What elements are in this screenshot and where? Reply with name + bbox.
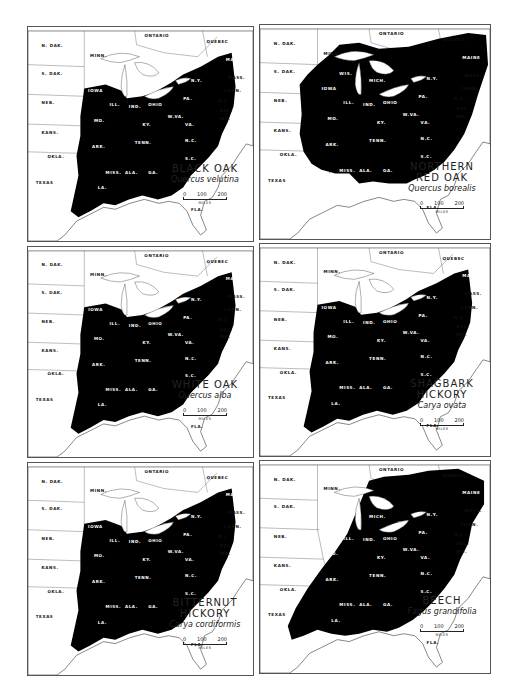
region-label: MD. <box>220 551 231 556</box>
scale-bar: 0100200 MILES <box>420 623 464 638</box>
region-label: CONN. <box>224 524 242 529</box>
scale-bar: 0100200 MILES <box>183 407 227 422</box>
region-label: VA. <box>185 122 194 127</box>
region-label: MD. <box>220 334 231 339</box>
region-label: MD. <box>456 114 467 119</box>
region-label: PA. <box>183 315 192 320</box>
region-label: N. DAK. <box>42 43 64 48</box>
region-label: NEB. <box>274 534 287 539</box>
region-label: IND. <box>129 104 141 109</box>
region-label: MAINE <box>462 273 480 278</box>
region-label: TENN. <box>369 356 386 361</box>
region-label: S. DAK. <box>274 287 296 292</box>
region-label: N.C. <box>185 356 197 361</box>
region-label: OKLA. <box>47 154 64 159</box>
map-legend: BEECH Fagus grandifolia 0100200 MILES <box>397 595 487 638</box>
region-label: TENN. <box>369 138 386 143</box>
region-label: ARK. <box>325 360 339 365</box>
region-label: OKLA. <box>47 371 64 376</box>
scientific-name: Carya ovata <box>397 400 487 411</box>
region-label: KY. <box>142 557 151 562</box>
region-label: ONTARIO <box>144 469 169 474</box>
region-label: PA. <box>419 94 428 99</box>
region-label: S. DAK. <box>274 504 296 509</box>
region-label: PA. <box>419 313 428 318</box>
region-label: KANS. <box>274 346 291 351</box>
region-label: MISS. <box>106 170 122 175</box>
region-label: IOWA <box>321 86 336 91</box>
scale-unit: MILES <box>183 645 227 651</box>
region-label: MISS. <box>339 385 355 390</box>
region-label: MO. <box>327 551 338 556</box>
region-label: GA. <box>383 602 393 607</box>
region-label: NEB. <box>42 100 55 105</box>
region-label: MICH. <box>369 297 386 302</box>
region-label: DEL. <box>220 543 233 548</box>
region-label: MICH. <box>135 80 151 85</box>
region-label: KY. <box>142 340 151 345</box>
region-label: FLA. <box>191 207 203 212</box>
region-label: GA. <box>383 385 393 390</box>
region-label: ALA. <box>359 168 372 173</box>
scale-unit: MILES <box>183 416 227 422</box>
range-map: N. DAK.S. DAK.NEB.KANS.OKLA.TEXASMINN.ON… <box>28 247 253 457</box>
region-label: MASS. <box>228 510 245 515</box>
region-label: LA. <box>98 402 107 407</box>
region-label: LA. <box>331 618 340 623</box>
region-label: CONN. <box>224 307 242 312</box>
map-legend: BLACK OAK Quercus velutina 0100200 MILES <box>160 163 250 206</box>
region-label: N. DAK. <box>274 477 296 482</box>
region-label: QUEBEC <box>206 39 228 44</box>
region-label: IOWA <box>88 524 103 529</box>
region-label: NEB. <box>42 536 55 541</box>
region-label: TEXAS <box>36 614 54 619</box>
region-label: MISS. <box>339 602 355 607</box>
region-label: N.J. <box>454 96 465 101</box>
region-label: FLA. <box>191 424 203 429</box>
region-label: OHIO <box>148 102 162 107</box>
region-label: MINN. <box>90 53 107 58</box>
scale-bar: 0100200 MILES <box>420 417 464 432</box>
region-label: IOWA <box>321 305 336 310</box>
common-name: SHAGBARK <box>397 378 487 389</box>
region-label: ALA. <box>359 385 372 390</box>
region-label: KY. <box>142 122 151 127</box>
region-label: ARK. <box>325 142 339 147</box>
region-label: MAINE <box>226 276 244 281</box>
region-label: QUEBEC <box>442 473 464 478</box>
region-label: W.VA. <box>403 547 420 552</box>
region-label: N. DAK. <box>42 479 64 484</box>
map-legend: SHAGBARK HICKORY Carya ovata 0100200 MIL… <box>397 378 487 432</box>
region-label: QUEBEC <box>442 37 464 42</box>
region-label: MISS. <box>106 604 122 609</box>
range-map-panel-shagbark-hickory: N. DAK.S. DAK.NEB.KANS.OKLA.TEXASMINN.ON… <box>259 243 491 457</box>
region-label: TENN. <box>369 573 386 578</box>
region-label: N. DAK. <box>274 260 296 265</box>
region-label: DEL. <box>456 324 469 329</box>
region-label: TENN. <box>135 358 152 363</box>
region-label: MICH. <box>369 514 386 519</box>
region-label: W.VA. <box>403 330 420 335</box>
region-label: ONTARIO <box>379 250 404 255</box>
range-map-panel-northern-red-oak: N. DAK.S. DAK.NEB.KANS.OKLA.TEXASMINN.ON… <box>259 24 491 240</box>
region-label: TENN. <box>135 140 152 145</box>
region-label: S. DAK. <box>42 290 63 295</box>
region-label: OHIO <box>383 536 397 541</box>
region-label: NEB. <box>274 317 287 322</box>
region-label: MASS. <box>228 294 245 299</box>
region-label: MINN. <box>323 269 340 274</box>
region-label: QUEBEC <box>442 256 464 261</box>
region-label: N.C. <box>421 136 433 141</box>
region-label: ILL. <box>343 100 354 105</box>
region-label: N.C. <box>421 354 433 359</box>
region-label: DEL. <box>220 108 233 113</box>
scientific-name: Quercus alba <box>160 390 250 401</box>
region-label: ARK. <box>92 362 105 367</box>
region-label: ARK. <box>92 144 105 149</box>
region-label: S. DAK. <box>42 506 63 511</box>
region-label: PA. <box>183 532 192 537</box>
region-label: MO. <box>94 118 105 123</box>
common-name: BITTERNUT <box>160 597 250 608</box>
region-label: MINN. <box>90 272 107 277</box>
region-label: VA. <box>421 120 431 125</box>
